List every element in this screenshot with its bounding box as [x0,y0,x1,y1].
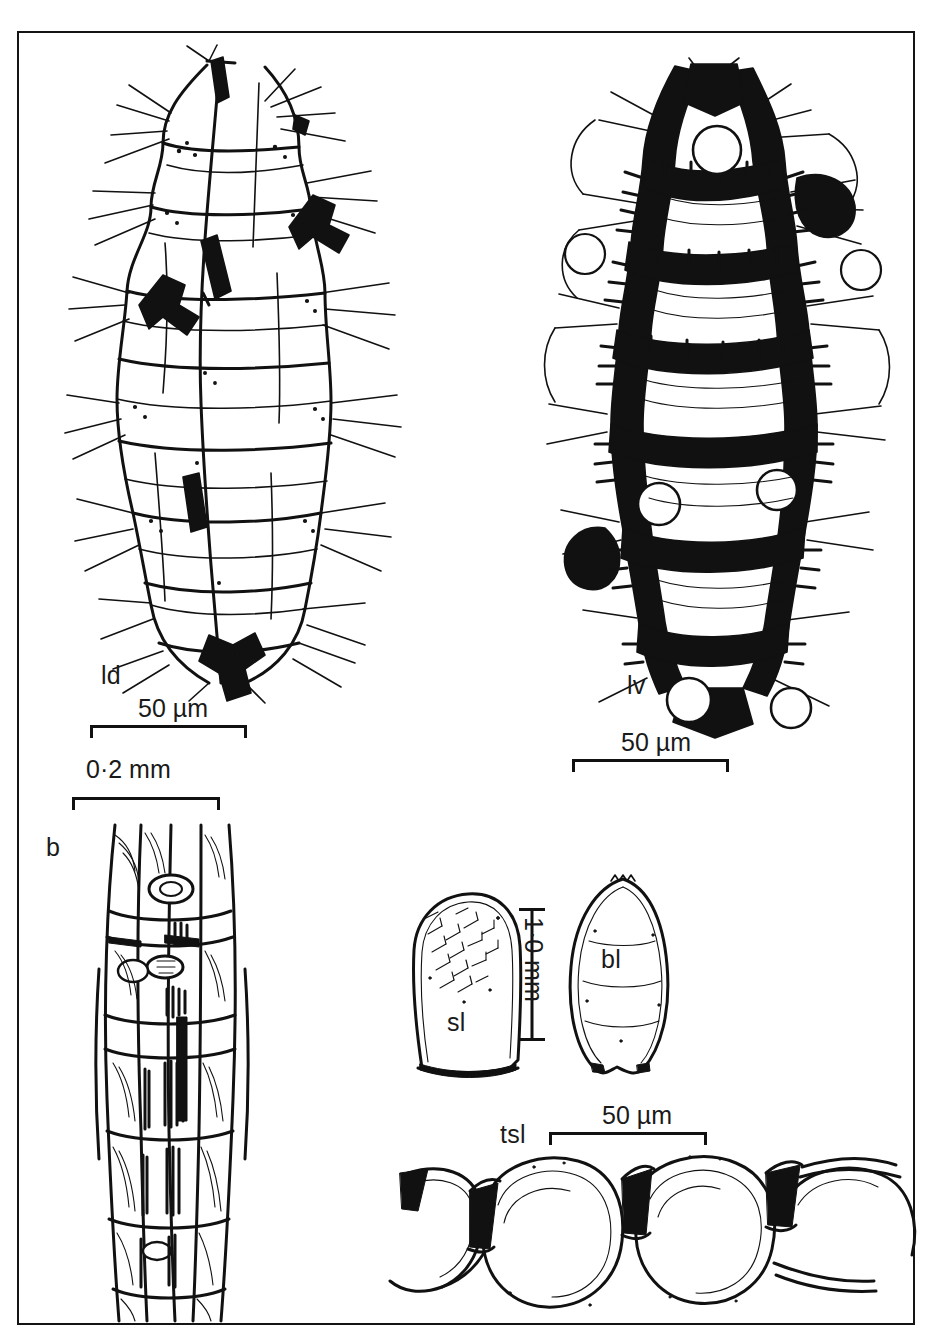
panel-label-bl: bl [601,945,621,974]
panel-bl [547,871,697,1086]
scale-bar-ld [90,725,247,739]
panel-b [79,819,259,1324]
panel-sl [394,878,534,1083]
panel-ld [59,43,409,703]
b-drawing [79,819,259,1324]
scale-text-tsl: 50 µm [602,1101,672,1130]
scale-text-lv: 50 µm [621,728,691,757]
ld-drawing [59,43,409,703]
scale-text-ld: 50 µm [138,694,208,723]
panel-label-ld: ld [101,661,121,690]
tsl-drawing [414,1143,904,1323]
scale-bar-b [72,797,220,811]
scale-text-leaves: 1·0 mm [519,917,548,1002]
panel-label-b: b [46,833,60,862]
scale-bar-lv [572,759,729,773]
bl-drawing [547,871,697,1086]
scale-text-b: 0·2 mm [86,755,171,784]
lv-drawing [539,58,899,738]
panel-label-lv: lv [627,671,646,700]
panel-lv [539,58,899,738]
panel-label-sl: sl [447,1008,466,1037]
panel-tsl [414,1143,904,1323]
sl-drawing [394,878,534,1083]
figure-plate: ld 50 µm [17,31,915,1325]
